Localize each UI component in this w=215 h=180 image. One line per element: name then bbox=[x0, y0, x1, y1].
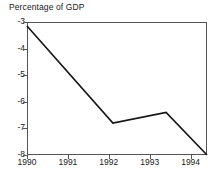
y-tick-label: -3 bbox=[1, 17, 25, 26]
y-axis-tick-labels: -3-4-5-6-7-8 bbox=[0, 0, 25, 180]
x-axis-tick-labels: 19901991199219931994 bbox=[0, 157, 215, 171]
x-tick-mark bbox=[191, 155, 192, 159]
x-tick-mark bbox=[68, 155, 69, 159]
x-tick-mark bbox=[109, 155, 110, 159]
y-tick-mark bbox=[23, 128, 27, 129]
x-tick-mark bbox=[27, 155, 28, 159]
chart-figure: Percentage of GDP -3-4-5-6-7-8 199019911… bbox=[0, 0, 215, 180]
y-tick-label: -7 bbox=[1, 123, 25, 132]
y-tick-mark bbox=[23, 22, 27, 23]
y-tick-label: -6 bbox=[1, 97, 25, 106]
line-series-budget-balance bbox=[27, 26, 207, 155]
y-tick-mark bbox=[23, 49, 27, 50]
x-tick-mark bbox=[150, 155, 151, 159]
y-tick-mark bbox=[23, 102, 27, 103]
y-tick-label: -5 bbox=[1, 70, 25, 79]
y-tick-label: -4 bbox=[1, 44, 25, 53]
y-tick-mark bbox=[23, 75, 27, 76]
plot-data-layer bbox=[27, 22, 207, 155]
